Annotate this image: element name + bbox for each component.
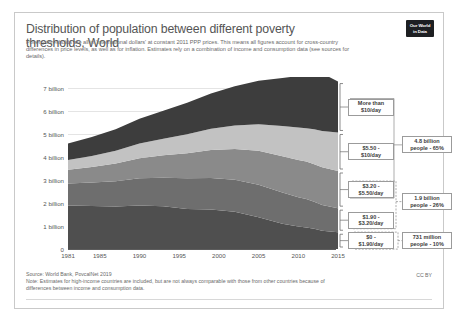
x-axis-line bbox=[68, 249, 336, 250]
aggregate-stat-label[interactable]: 1.9 billionpeople - 26% bbox=[402, 193, 452, 210]
x-tick-label: 1985 bbox=[93, 252, 107, 259]
chart-subtitle: Poverty thresholds are all in 'internati… bbox=[26, 39, 352, 61]
aggregate-label-line-1: 4.8 billion bbox=[414, 138, 439, 145]
stacked-area-series bbox=[68, 77, 338, 249]
aggregate-stat-label[interactable]: 4.8 billionpeople - 65% bbox=[402, 136, 452, 153]
aggregate-label-line-1: 1.9 billion bbox=[414, 195, 439, 202]
aggregate-label-line-1: 731 million bbox=[413, 234, 441, 241]
band-threshold-label[interactable]: More than$10/day bbox=[348, 99, 394, 116]
band-label-line-2: $1.90/day bbox=[359, 241, 384, 248]
x-tick-label: 1995 bbox=[172, 252, 186, 259]
aggregate-stat-label[interactable]: 731 millionpeople - 10% bbox=[402, 232, 452, 249]
x-tick-label: 1990 bbox=[133, 252, 147, 259]
aggregate-label-line-2: people - 10% bbox=[410, 241, 444, 248]
band-label-line-1: More than bbox=[358, 100, 384, 107]
band-label-line-2: $5.50/day bbox=[359, 190, 384, 197]
aggregate-label-line-2: people - 26% bbox=[410, 202, 444, 209]
our-world-in-data-logo[interactable]: Our World in Data bbox=[406, 20, 434, 37]
band-threshold-label[interactable]: $0 -$1.90/day bbox=[348, 232, 394, 249]
y-tick-label: 0 bbox=[26, 246, 64, 253]
x-tick-label: 2000 bbox=[212, 252, 226, 259]
band-threshold-label[interactable]: $1.90 -$3.20/day bbox=[348, 212, 394, 229]
band-label-line-2: $10/day bbox=[361, 152, 381, 159]
band-label-line-1: $0 - bbox=[366, 234, 375, 241]
license-label: CC BY bbox=[416, 272, 432, 278]
x-tick-label: 2010 bbox=[292, 252, 306, 259]
band-threshold-label[interactable]: $3.20 -$5.50/day bbox=[348, 181, 394, 198]
footer-divider bbox=[26, 299, 432, 300]
band-label-line-1: $3.20 - bbox=[362, 183, 379, 190]
band-label-line-2: $10/day bbox=[361, 107, 381, 114]
y-tick-label: 6 billion bbox=[26, 108, 64, 115]
y-tick-label: 3 billion bbox=[26, 177, 64, 184]
band-label-line-1: $5.50 - bbox=[362, 145, 379, 152]
chart-card: Distribution of population between diffe… bbox=[14, 12, 444, 309]
band-threshold-label[interactable]: $5.50 -$10/day bbox=[348, 143, 394, 160]
band-label-line-1: $1.90 - bbox=[362, 214, 379, 221]
note-line: Note: Estimates for high-income countrie… bbox=[26, 278, 326, 292]
plot-area: 01 billion2 billion3 billion4 billion5 b… bbox=[26, 77, 434, 272]
y-tick-label: 7 billion bbox=[26, 85, 64, 92]
y-tick-label: 1 billion bbox=[26, 223, 64, 230]
y-tick-label: 2 billion bbox=[26, 200, 64, 207]
footer-text: Source: World Bank, PovcalNet 2019 Note:… bbox=[26, 271, 326, 292]
source-line: Source: World Bank, PovcalNet 2019 bbox=[26, 271, 326, 278]
aggregate-label-line-2: people - 65% bbox=[410, 145, 444, 152]
logo-line-2: in Data bbox=[413, 29, 427, 35]
y-tick-label: 5 billion bbox=[26, 131, 64, 138]
x-tick-label: 1981 bbox=[61, 252, 75, 259]
band-label-line-2: $3.20/day bbox=[359, 220, 384, 227]
x-tick-label: 2005 bbox=[252, 252, 266, 259]
y-tick-label: 4 billion bbox=[26, 154, 64, 161]
